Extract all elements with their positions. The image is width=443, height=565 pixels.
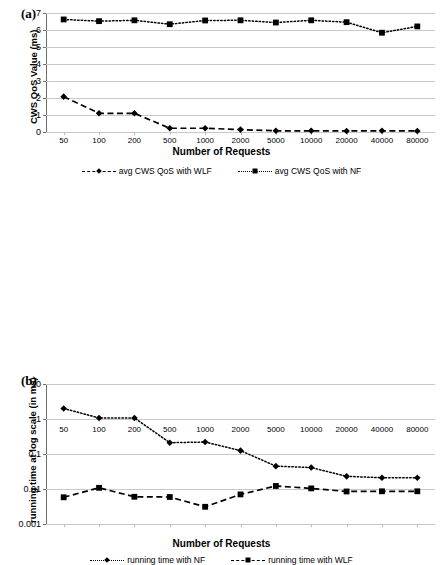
data-point-square (61, 494, 67, 500)
x-tick-mark (99, 524, 100, 527)
y-tick-label: 0.1 (7, 449, 41, 459)
y-tick-label: 0.01 (7, 484, 41, 494)
plot-area-b: 0.0010.010.11105010020050010002000500010… (46, 384, 435, 524)
x-tick-mark (170, 524, 171, 527)
x-tick-mark (241, 524, 242, 527)
x-tick-label: 80000 (395, 136, 439, 145)
data-point-square (379, 30, 385, 36)
data-point-square (167, 21, 173, 27)
legend-swatch-square-dashed-icon (231, 556, 265, 565)
y-tick-mark (43, 132, 46, 133)
data-point-diamond (343, 128, 350, 135)
data-point-square (238, 17, 244, 23)
data-point-diamond (237, 126, 244, 133)
legend-item-nf-a: avg CWS QoS with NF (238, 166, 361, 176)
data-point-square (61, 17, 67, 23)
data-point-square (308, 486, 314, 492)
data-point-square (273, 20, 279, 26)
data-point-square (414, 488, 420, 494)
data-point-square (238, 492, 244, 498)
data-point-diamond (60, 93, 67, 100)
series-layer (46, 13, 435, 132)
x-tick-mark (417, 524, 418, 527)
data-point-diamond (273, 463, 280, 470)
legend-b: running time with NF running time with W… (0, 555, 443, 565)
series-line (64, 408, 418, 477)
y-tick-label: 1 (11, 110, 41, 120)
chart-panel-b: (b) running time at log scale (in ms) 0.… (0, 186, 443, 384)
data-point-square (273, 483, 279, 489)
x-axis-label-b: Number of Requests (0, 538, 443, 549)
x-tick-mark (64, 132, 65, 135)
x-tick-mark (205, 132, 206, 135)
legend-label-nf-a: avg CWS QoS with NF (275, 166, 361, 176)
data-point-diamond (379, 474, 386, 481)
y-tick-label: 0.001 (7, 519, 41, 529)
y-tick-label: 0 (11, 127, 41, 137)
y-tick-label: 7 (11, 8, 41, 18)
data-point-square (202, 504, 208, 510)
data-point-diamond (308, 464, 315, 471)
legend-swatch-diamond-dashed-icon (82, 167, 116, 176)
data-point-square (414, 24, 420, 30)
y-tick-label: 6 (11, 25, 41, 35)
x-tick-mark (382, 524, 383, 527)
y-tick-label: 4 (11, 59, 41, 69)
legend-item-wlf-a: avg CWS QoS with WLF (82, 166, 212, 176)
data-point-square (132, 494, 138, 500)
data-point-square (132, 17, 138, 23)
data-point-diamond (273, 128, 280, 135)
data-point-square (96, 485, 102, 491)
data-point-square (379, 488, 385, 494)
x-tick-mark (276, 524, 277, 527)
y-tick-label: 5 (11, 42, 41, 52)
data-point-diamond (202, 439, 209, 446)
data-point-diamond (131, 110, 138, 117)
data-point-square (167, 494, 173, 500)
data-point-diamond (96, 110, 103, 117)
data-point-diamond (237, 447, 244, 454)
legend-swatch-diamond-dotted-icon (90, 556, 124, 565)
legend-item-nf-b: running time with NF (90, 555, 205, 565)
legend-label-wlf-a: avg CWS QoS with WLF (119, 166, 212, 176)
data-point-diamond (60, 405, 67, 412)
x-tick-mark (134, 524, 135, 527)
data-point-diamond (308, 128, 315, 135)
y-tick-mark (43, 524, 46, 525)
series-layer (46, 384, 435, 524)
x-tick-mark (99, 132, 100, 135)
data-point-square (202, 18, 208, 24)
data-point-diamond (414, 128, 421, 135)
y-tick-label: 3 (11, 76, 41, 86)
data-point-diamond (379, 128, 386, 135)
x-tick-mark (170, 132, 171, 135)
data-point-square (96, 18, 102, 24)
data-point-diamond (343, 473, 350, 480)
chart-panel-a: (a) CWS QoS Value (ms) 01234567501002005… (0, 0, 443, 186)
legend-item-wlf-b: running time with WLF (231, 555, 353, 565)
x-tick-mark (311, 524, 312, 527)
x-tick-mark (205, 524, 206, 527)
legend-swatch-square-dotted-icon (238, 167, 272, 176)
x-tick-mark (347, 524, 348, 527)
data-point-diamond (96, 415, 103, 422)
data-point-square (344, 489, 350, 495)
legend-label-wlf-b: running time with WLF (268, 555, 353, 565)
y-tick-label: 10 (7, 379, 41, 389)
data-point-square (308, 17, 314, 23)
data-point-diamond (202, 125, 209, 132)
legend-a: avg CWS QoS with WLF avg CWS QoS with NF (0, 166, 443, 176)
x-tick-mark (64, 524, 65, 527)
y-tick-label: 1 (7, 414, 41, 424)
legend-label-nf-b: running time with NF (127, 555, 205, 565)
x-tick-mark (134, 132, 135, 135)
x-axis-label-a: Number of Requests (0, 146, 443, 157)
data-point-diamond (166, 125, 173, 132)
data-point-square (344, 19, 350, 25)
y-tick-label: 2 (11, 93, 41, 103)
series-line (64, 97, 418, 131)
data-point-diamond (414, 474, 421, 481)
plot-area-a: 0123456750100200500100020005000100002000… (46, 13, 435, 132)
